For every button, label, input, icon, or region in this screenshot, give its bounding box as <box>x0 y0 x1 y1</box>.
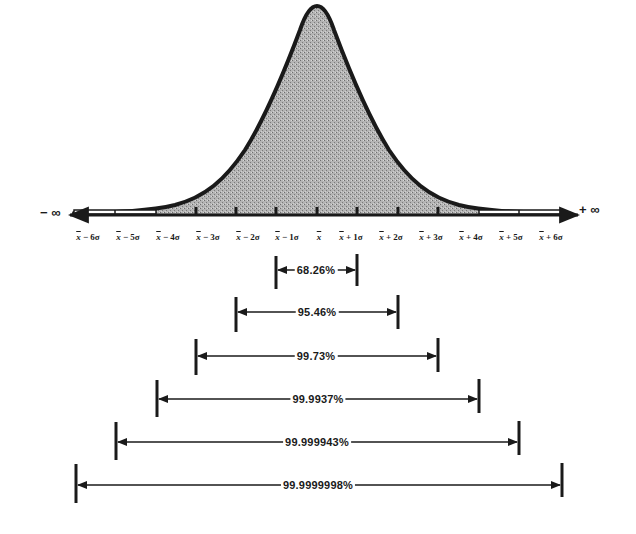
tick-label-plus-2-sigma: x + 2σ <box>379 232 403 242</box>
range-brackets <box>76 254 562 503</box>
range-label-6-sigma: 99.9999998% <box>281 479 355 491</box>
tick-label-minus-4-sigma: x − 4σ <box>156 232 180 242</box>
range-label-3-sigma: 99.73% <box>295 350 338 362</box>
positive-infinity-label: + ∞ <box>579 202 599 217</box>
tick-label-minus-5-sigma: x − 5σ <box>116 232 140 242</box>
negative-infinity-label: − ∞ <box>40 205 60 220</box>
tick-label-plus-6-sigma: x + 6σ <box>539 232 563 242</box>
tick-label-minus-1-sigma: x − 1σ <box>275 232 299 242</box>
tick-label-plus-3-sigma: x + 3σ <box>419 232 443 242</box>
range-label-1-sigma: 68.26% <box>295 264 338 276</box>
range-label-5-sigma: 99.999943% <box>283 436 351 448</box>
bell-curve-area <box>74 6 560 214</box>
tick-label-minus-2-sigma: x − 2σ <box>236 232 260 242</box>
right-tail-outline <box>479 210 561 214</box>
tick-label-minus-6-sigma: x − 6σ <box>76 232 100 242</box>
range-label-2-sigma: 95.46% <box>296 306 339 318</box>
tick-label-plus-5-sigma: x + 5σ <box>499 232 523 242</box>
tick-label-plus-1-sigma: x + 1σ <box>339 232 363 242</box>
tick-label-plus-4-sigma: x + 4σ <box>459 232 483 242</box>
tick-label-mean: x <box>317 232 322 242</box>
range-label-4-sigma: 99.9937% <box>290 393 345 405</box>
tick-label-minus-3-sigma: x − 3σ <box>196 232 220 242</box>
